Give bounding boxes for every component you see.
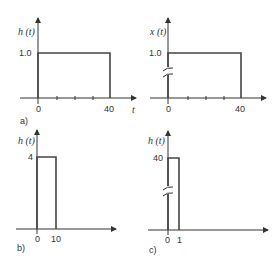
panel-caption: a) bbox=[20, 116, 28, 126]
y-axis-label: h (t) bbox=[18, 135, 36, 147]
panel-b: h (t) 4 0 10 b) bbox=[16, 130, 116, 253]
panel-x: x (t) 1.0 0 40 bbox=[149, 18, 266, 114]
x-tick-0: 0 bbox=[166, 104, 171, 114]
x-tick-0: 0 bbox=[36, 104, 41, 114]
pulse-curve bbox=[38, 53, 110, 98]
panel-c: h (t) 40 0 1 c) bbox=[148, 131, 268, 255]
y-axis-label: x (t) bbox=[149, 26, 167, 38]
panel-a: h (t) 1.0 0 40 t a) bbox=[18, 18, 136, 126]
panel-caption: c) bbox=[149, 245, 157, 255]
x-axis-label: t bbox=[132, 104, 135, 115]
level-label: 1.0 bbox=[19, 48, 32, 58]
y-axis-label: h (t) bbox=[148, 135, 166, 147]
level-label: 40 bbox=[153, 153, 163, 163]
pulse-curve bbox=[168, 53, 241, 98]
level-label: 1.0 bbox=[149, 48, 162, 58]
level-label: 4 bbox=[28, 152, 33, 162]
x-tick-end: 40 bbox=[104, 104, 114, 114]
y-axis-label: h (t) bbox=[18, 26, 36, 38]
diagram-canvas: h (t) 1.0 0 40 t a) x (t) 1.0 0 40 h (t)… bbox=[0, 0, 280, 264]
x-tick-end: 1 bbox=[177, 235, 182, 245]
pulse-curve bbox=[37, 157, 56, 229]
x-tick-0: 0 bbox=[165, 235, 170, 245]
panel-caption: b) bbox=[17, 243, 25, 253]
x-tick-end: 10 bbox=[51, 234, 61, 244]
x-tick-0: 0 bbox=[35, 234, 40, 244]
x-tick-end: 40 bbox=[235, 104, 245, 114]
